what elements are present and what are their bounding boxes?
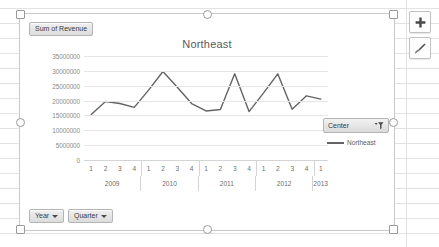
quarter-tick-label: 2 <box>156 161 170 176</box>
plot-area[interactable] <box>84 56 328 160</box>
selection-handle-top-center[interactable] <box>203 10 212 19</box>
pivot-field-button-values[interactable]: Sum of Revenue <box>29 22 93 36</box>
legend-line-swatch <box>327 142 344 144</box>
selection-handle-bottom-right[interactable] <box>389 225 398 234</box>
horizontal-gridline <box>84 130 328 131</box>
pivot-field-label-values: Sum of Revenue <box>35 23 87 35</box>
plus-icon <box>415 17 426 28</box>
quarter-tick-label: 1 <box>141 161 155 176</box>
quarter-tick-label: 4 <box>299 161 313 176</box>
horizontal-gridline <box>84 145 328 146</box>
pivot-field-label-quarter: Quarter <box>74 210 98 222</box>
y-axis: 3500000030000000250000002000000015000000… <box>28 56 80 160</box>
pivot-field-button-center[interactable]: Center <box>323 118 389 133</box>
selection-handle-bottom-center[interactable] <box>203 225 212 234</box>
chart-title[interactable]: Northeast <box>20 38 394 50</box>
horizontal-gridline <box>84 56 328 57</box>
axis-group-separator <box>314 161 315 176</box>
year-tick-label: 2009 <box>84 176 140 191</box>
quarter-tick-row: 12341234123412341 <box>84 161 328 176</box>
horizontal-gridline <box>84 101 328 102</box>
quarter-tick-label: 1 <box>314 161 328 176</box>
pivot-field-label-year: Year <box>35 210 49 222</box>
selection-handle-middle-right[interactable] <box>389 118 398 127</box>
plot-wrapper: 3500000030000000250000002000000015000000… <box>28 56 328 176</box>
chart-elements-button[interactable] <box>409 11 431 33</box>
legend-label: Northeast <box>347 139 376 146</box>
quarter-tick-label: 4 <box>242 161 256 176</box>
quarter-tick-label: 2 <box>213 161 227 176</box>
y-axis-tick-label: 20000000 <box>52 97 80 104</box>
quarter-tick-label: 2 <box>98 161 112 176</box>
quarter-tick-label: 4 <box>185 161 199 176</box>
horizontal-gridline <box>84 86 328 87</box>
quarter-tick-label: 1 <box>84 161 98 176</box>
pivot-field-button-year[interactable]: Year <box>29 209 64 223</box>
quarter-tick-label: 3 <box>113 161 127 176</box>
axis-group-separator <box>141 161 142 176</box>
quarter-tick-label: 1 <box>199 161 213 176</box>
caret-down-icon <box>101 215 107 218</box>
y-axis-tick-label: 10000000 <box>52 127 80 134</box>
chart-styles-button[interactable] <box>409 37 431 59</box>
y-axis-tick-label: 15000000 <box>52 112 80 119</box>
legend-entry-northeast[interactable]: Northeast <box>323 139 389 146</box>
quarter-tick-label: 3 <box>285 161 299 176</box>
funnel-filter-icon <box>374 121 384 130</box>
y-axis-tick-label: 0 <box>77 157 80 164</box>
axis-group-separator <box>256 161 257 176</box>
pivot-field-button-quarter[interactable]: Quarter <box>68 209 113 223</box>
worksheet-column-gridline <box>406 0 407 247</box>
year-tick-label: 2012 <box>255 176 312 191</box>
selection-handle-bottom-left[interactable] <box>16 225 25 234</box>
y-axis-tick-label: 25000000 <box>52 82 80 89</box>
horizontal-gridline <box>84 71 328 72</box>
y-axis-tick-label: 30000000 <box>52 67 80 74</box>
y-axis-tick-label: 35000000 <box>52 53 80 60</box>
legend-container: Center Northeast <box>323 118 389 146</box>
paintbrush-icon <box>414 42 427 55</box>
selection-handle-middle-left[interactable] <box>16 118 25 127</box>
selection-handle-top-left[interactable] <box>16 10 25 19</box>
quarter-tick-label: 1 <box>256 161 270 176</box>
caret-down-icon <box>52 215 58 218</box>
worksheet-row-gridline <box>0 8 439 9</box>
year-tick-label: 2013 <box>312 176 328 191</box>
horizontal-gridline <box>84 115 328 116</box>
year-tick-label: 2010 <box>140 176 197 191</box>
category-axis: 12341234123412341 20092010201120122013 <box>84 160 328 191</box>
worksheet-row-gridline <box>0 233 439 234</box>
quarter-tick-label: 2 <box>271 161 285 176</box>
pivotchart-object[interactable]: Sum of Revenue Northeast 350000003000000… <box>19 13 395 231</box>
quarter-tick-label: 3 <box>228 161 242 176</box>
selection-handle-top-right[interactable] <box>389 10 398 19</box>
y-axis-tick-label: 5000000 <box>56 142 80 149</box>
year-tick-row: 20092010201120122013 <box>84 176 328 191</box>
pivot-field-label-center: Center <box>328 122 349 129</box>
quarter-tick-label: 3 <box>170 161 184 176</box>
year-tick-label: 2011 <box>198 176 255 191</box>
quarter-tick-label: 4 <box>127 161 141 176</box>
axis-group-separator <box>199 161 200 176</box>
